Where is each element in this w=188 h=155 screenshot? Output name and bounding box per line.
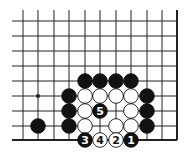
black-stone: [31, 119, 46, 134]
white-stone-move-2: 2: [109, 133, 124, 148]
move-number-label: 3: [81, 134, 89, 147]
black-stone: [140, 89, 155, 104]
white-stone: [124, 104, 139, 119]
black-stone: [62, 89, 77, 104]
black-stone: [109, 74, 124, 89]
black-stone: [124, 74, 139, 89]
black-stone: [62, 119, 77, 134]
white-stone: [124, 89, 139, 104]
black-stone: [140, 119, 155, 134]
black-stone: [93, 74, 108, 89]
black-stone: [62, 104, 77, 119]
white-stone: [109, 89, 124, 104]
white-stone: [124, 119, 139, 134]
white-stone: [78, 89, 93, 104]
go-board: 53421: [0, 0, 188, 155]
move-number-label: 5: [96, 105, 104, 118]
star-points: [36, 94, 40, 98]
move-number-label: 2: [112, 134, 120, 147]
white-stone: [109, 119, 124, 134]
star-point: [36, 94, 40, 98]
white-stone: [78, 119, 93, 134]
white-stone: [93, 89, 108, 104]
white-stone: [78, 104, 93, 119]
black-stone-move-1: 1: [124, 133, 139, 148]
move-number-label: 1: [127, 134, 135, 147]
black-stone: [140, 104, 155, 119]
white-stone-move-4: 4: [93, 133, 108, 148]
black-stone: [78, 74, 93, 89]
move-number-label: 4: [96, 134, 104, 147]
black-stone-move-5: 5: [93, 104, 108, 119]
black-stone-move-3: 3: [78, 133, 93, 148]
